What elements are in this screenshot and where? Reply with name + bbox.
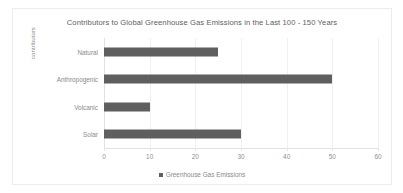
category-row: Anthropogenic [104,66,378,94]
bar-anthropogenic[interactable] [104,75,332,84]
plot-area: NaturalAnthropogenicVolcanicSolar [104,38,378,148]
category-row: Volcanic [104,93,378,121]
category-row: Solar [104,121,378,149]
x-tick-label-0: 0 [102,153,106,160]
x-tick-label-50: 50 [329,153,336,160]
x-tick-mark-0 [104,148,105,151]
legend-swatch-greenhouse-gas-emissions [159,173,163,177]
x-tick-mark-50 [332,148,333,151]
x-tick-mark-40 [287,148,288,151]
bar-solar[interactable] [104,130,241,139]
y-axis-title: contributors [27,13,39,73]
legend-label-greenhouse-gas-emissions: Greenhouse Gas Emissions [166,171,246,178]
x-tick-label-60: 60 [374,153,381,160]
x-tick-mark-30 [241,148,242,151]
bar-natural[interactable] [104,47,218,56]
chart-legend: Greenhouse Gas Emissions [13,171,391,178]
chart-title: Contributors to Global Greenhouse Gas Em… [13,18,391,27]
x-tick-mark-10 [150,148,151,151]
chart-card: Contributors to Global Greenhouse Gas Em… [12,8,392,185]
category-row: Natural [104,38,378,66]
x-tick-label-40: 40 [283,153,290,160]
x-tick-mark-60 [378,148,379,151]
y-tick-label-anthropogenic: Anthropogenic [57,76,98,83]
y-tick-label-natural: Natural [77,48,98,55]
bar-volcanic[interactable] [104,102,150,111]
gridline-60 [378,38,379,148]
y-tick-label-solar: Solar [83,131,98,138]
x-tick-mark-20 [195,148,196,151]
x-tick-label-10: 10 [146,153,153,160]
x-tick-label-30: 30 [237,153,244,160]
y-tick-label-volcanic: Volcanic [74,103,98,110]
x-tick-label-20: 20 [192,153,199,160]
